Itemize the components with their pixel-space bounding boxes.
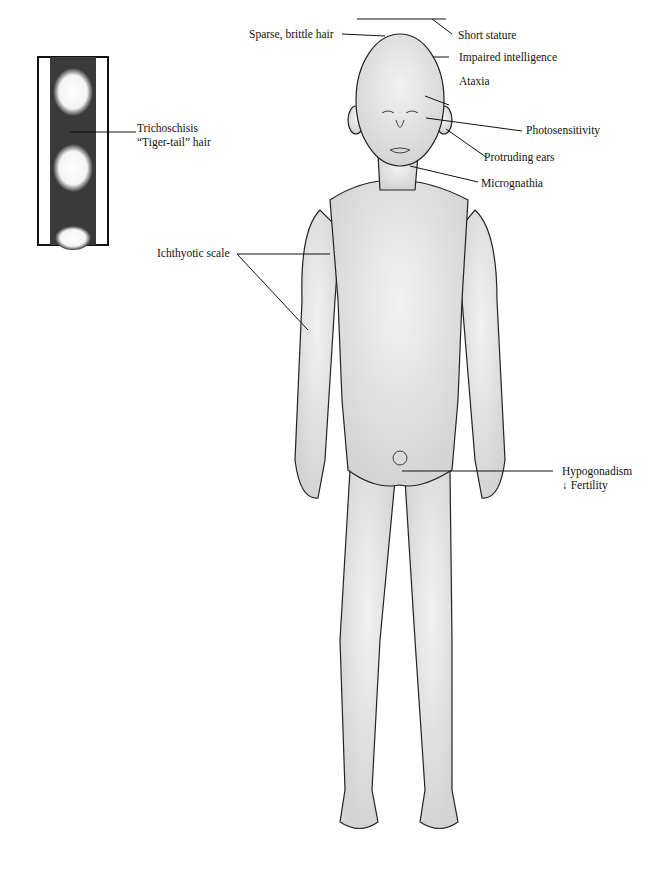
photosensitivity-label: Photosensitivity xyxy=(526,124,600,137)
hypogonadism-label: Hypogonadism xyxy=(562,465,632,478)
tiger-tail-label: “Tiger-tail” hair xyxy=(137,136,211,149)
fertility-label: ↓ Fertility xyxy=(562,479,608,492)
sparse-hair-label: Sparse, brittle hair xyxy=(249,28,334,41)
fertility-text: Fertility xyxy=(571,479,608,491)
trichoschisis-label: Trichoschisis xyxy=(137,122,198,135)
short-stature-label: Short stature xyxy=(458,29,516,42)
ichthyotic-scale-label: Ichthyotic scale xyxy=(157,247,229,260)
impaired-intelligence-label: Impaired intelligence xyxy=(459,51,557,64)
protruding-ears-label: Protruding ears xyxy=(484,151,555,164)
down-arrow-icon: ↓ xyxy=(562,479,568,491)
micrognathia-label: Micrognathia xyxy=(481,177,543,190)
tiger-tail-hair-inset xyxy=(38,57,108,250)
ataxia-label: Ataxia xyxy=(459,75,490,88)
